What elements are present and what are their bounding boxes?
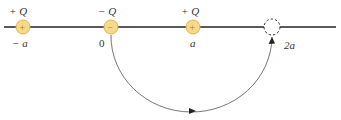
position-label: 0 (99, 37, 105, 49)
position-label: − a (12, 37, 28, 49)
charge-sign: + (190, 22, 196, 33)
charge-label: + Q (9, 5, 27, 17)
path-arrow-bottom-icon (189, 108, 196, 114)
path-arrow-end-icon (269, 37, 276, 44)
position-label: a (190, 37, 196, 49)
dashed-circle-icon (264, 19, 280, 35)
charge-sign: − (108, 22, 114, 33)
destination-2a: 2a (264, 19, 296, 51)
charge-sign: + (20, 22, 26, 33)
charge-label: − Q (98, 5, 116, 17)
charge-label: + Q (181, 5, 199, 17)
charge-diagram: + Q + − a − Q − 0 + Q + a 2a (0, 0, 341, 120)
position-label: 2a (284, 39, 296, 51)
